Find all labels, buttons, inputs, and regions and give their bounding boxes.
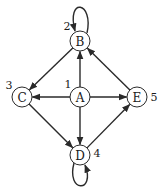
node-number-label: 3 [6, 79, 13, 92]
node-label: D [75, 149, 85, 163]
node-c: C3 [6, 79, 33, 108]
node-number-label: 1 [65, 78, 72, 91]
edge-d-to-d [73, 163, 88, 186]
node-label: E [133, 91, 142, 105]
node-a: A1 [65, 78, 91, 108]
node-d: D4 [70, 145, 101, 165]
node-number-label: 4 [94, 147, 101, 160]
edge-b-to-b [73, 7, 88, 33]
node-b: B2 [64, 20, 91, 52]
edge-d-to-e [87, 104, 130, 147]
edge-c-to-d [29, 104, 73, 148]
node-number-label: 5 [151, 91, 158, 104]
graph-svg: A1B2C3D4E5 [0, 0, 164, 188]
node-number-label: 2 [64, 20, 71, 33]
nodes-group: A1B2C3D4E5 [6, 20, 158, 166]
node-label: C [17, 91, 26, 105]
edge-e-to-b [87, 48, 129, 90]
directed-graph-diagram: A1B2C3D4E5 [0, 0, 164, 188]
node-e: E5 [127, 87, 158, 107]
node-label: A [75, 91, 85, 105]
node-label: B [76, 35, 85, 49]
